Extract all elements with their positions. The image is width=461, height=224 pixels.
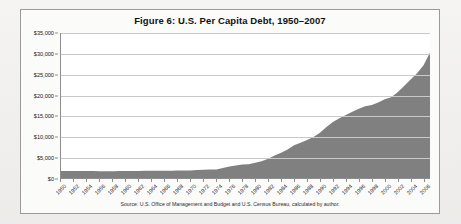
x-axis-tick [190,179,191,182]
x-axis-tick-label: 1964 [145,183,158,196]
x-axis-tick [242,179,243,182]
y-axis-tick-label: $35,000 [34,30,54,36]
x-axis-tick-label: 2004 [405,183,418,196]
gridline [61,116,430,117]
y-axis-tick [55,33,58,34]
x-axis-tick [411,179,412,182]
gridline [61,96,430,97]
x-axis-tick [164,179,165,182]
x-axis-tick-label: 1986 [288,183,301,196]
chart-title: Figure 6: U.S. Per Capita Debt, 1950–200… [21,15,439,26]
plot-area [60,33,430,179]
x-axis-tick [268,179,269,182]
x-axis-tick-label: 1958 [106,183,119,196]
x-axis-tick [372,179,373,182]
x-axis-tick [398,179,399,182]
y-axis-tick [55,158,58,159]
figure-container: Figure 6: U.S. Per Capita Debt, 1950–200… [20,9,440,214]
y-axis-tick [55,53,58,54]
area-path [61,52,430,178]
x-axis-tick-label: 1972 [197,183,210,196]
x-axis-tick-label: 1978 [236,183,249,196]
x-axis-tick [359,179,360,182]
x-axis-tick [333,179,334,182]
x-axis-tick [99,179,100,182]
x-axis-tick-label: 1950 [55,183,68,196]
x-axis-tick-label: 2002 [392,183,405,196]
x-axis-tick-label: 1990 [314,183,327,196]
x-axis-tick-label: 1956 [93,183,106,196]
gridline [61,54,430,55]
y-axis-tick-label: $0 [48,176,54,182]
x-axis-tick [125,179,126,182]
y-axis-tick-label: $25,000 [34,72,54,78]
x-axis-tick-label: 1974 [210,183,223,196]
x-axis-tick [320,179,321,182]
gridline [61,75,430,76]
x-axis-tick [281,179,282,182]
x-axis-tick [151,179,152,182]
y-axis: $0$5,000$10,000$15,000$20,000$25,000$30,… [21,33,58,179]
x-axis-tick [229,179,230,182]
x-axis-tick-label: 1968 [171,183,184,196]
x-axis-tick [73,179,74,182]
x-axis-tick-label: 1954 [80,183,93,196]
x-axis-tick-label: 1952 [67,183,80,196]
y-axis-tick-label: $5,000 [37,155,54,161]
x-axis-tick-label: 1992 [327,183,340,196]
x-axis-tick [307,179,308,182]
x-axis-tick-label: 1994 [340,183,353,196]
x-axis-tick [60,179,61,182]
x-axis-tick-label: 1962 [132,183,145,196]
x-axis-tick-label: 1988 [301,183,314,196]
source-note: Source: U.S. Office of Management and Bu… [21,201,439,207]
x-axis-tick-label: 1998 [366,183,379,196]
y-axis-tick [55,95,58,96]
scanned-page: Figure 6: U.S. Per Capita Debt, 1950–200… [0,0,461,224]
x-axis-tick [86,179,87,182]
gridline [61,33,430,34]
x-axis-tick-label: 2000 [379,183,392,196]
x-axis-tick-label: 1982 [262,183,275,196]
gridline [61,137,430,138]
x-axis-tick [255,179,256,182]
x-axis-tick-label: 1966 [158,183,171,196]
x-axis-tick [385,179,386,182]
x-axis-tick [346,179,347,182]
x-axis-tick-label: 1976 [223,183,236,196]
y-axis-tick [55,179,58,180]
x-axis-tick-label: 2006 [418,183,431,196]
x-axis-tick [424,179,425,182]
x-axis-tick-label: 1960 [119,183,132,196]
x-axis-tick [112,179,113,182]
x-axis-tick-label: 1970 [184,183,197,196]
x-axis-tick [216,179,217,182]
y-axis-tick-label: $15,000 [34,113,54,119]
y-axis-tick-label: $20,000 [34,93,54,99]
gridline [61,158,430,159]
y-axis-tick-label: $10,000 [34,134,54,140]
y-axis-tick [55,74,58,75]
y-axis-tick [55,116,58,117]
x-axis-tick [203,179,204,182]
y-axis-tick [55,137,58,138]
x-axis-tick [294,179,295,182]
x-axis-tick [177,179,178,182]
y-axis-tick-label: $30,000 [34,51,54,57]
x-axis-tick-label: 1996 [353,183,366,196]
x-axis-tick-label: 1984 [275,183,288,196]
x-axis-tick-label: 1980 [249,183,262,196]
x-axis-tick [138,179,139,182]
